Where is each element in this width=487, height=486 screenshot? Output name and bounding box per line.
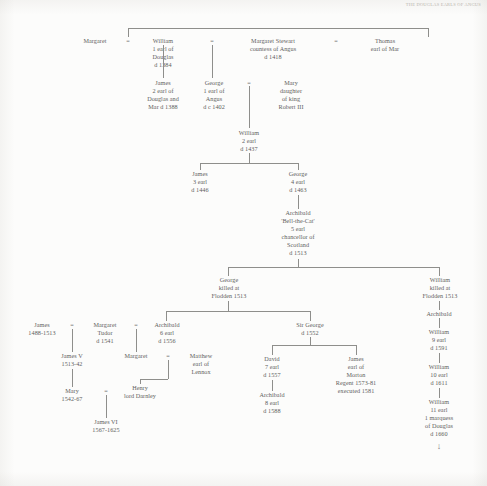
node-william-2-earl: William 2 earl d 1437	[215, 129, 283, 153]
node-william-11-earl: William 11 earl 1 marquess of Douglas d …	[404, 398, 474, 438]
node-james-v: James V 1513-42	[44, 352, 100, 368]
connector-to-sir-george	[310, 311, 311, 321]
node-james-vi: James VI 1567-1625	[78, 418, 134, 434]
connector-williamflodden-to-archibald	[439, 301, 440, 310]
connector-william9-to-william10	[439, 353, 440, 363]
connector-archibald-drop	[298, 259, 299, 267]
connector-to-james3	[200, 163, 201, 170]
continuation-arrow-icon: ↓	[409, 442, 469, 451]
node-archibald-bell-the-cat: Archibald 'Bell-the-Cat' 5 earl chancell…	[258, 209, 338, 258]
node-william-9-earl: William 9 earl d 1591	[409, 328, 469, 352]
node-archibald-right: Archibald	[409, 310, 469, 318]
marriage-symbol-margaret-stewart-thomas: =	[330, 37, 342, 45]
connector-margaretstewart-to-george1	[212, 45, 213, 78]
node-archibald-6-earl: Archibald 6 earl d 1556	[140, 321, 194, 345]
node-james-morton: James earl of Morton Regent 1573-81 exec…	[318, 355, 394, 395]
node-margaret-stewart: Margaret Stewart countess of Angus d 141…	[218, 37, 328, 61]
node-james-iv: James 1488-1513	[12, 321, 72, 337]
connector-to-james-v	[72, 329, 73, 352]
connector-to-archibald6	[166, 311, 167, 321]
node-mary-queen: Mary 1542-67	[44, 387, 100, 403]
connector-william2-drop	[249, 153, 250, 163]
marriage-symbol-william-margaret-stewart: =	[206, 37, 218, 45]
marriage-symbol-mary-darnley: =	[100, 387, 112, 395]
node-sir-george: Sir George d 1552	[282, 321, 338, 337]
connector-sirgeorge-drop	[310, 337, 311, 345]
node-thomas-earl-mar: Thomas earl of Mar	[345, 37, 425, 53]
node-archibald-8-earl: Archibald 8 earl d 1588	[246, 391, 298, 415]
node-mary-robert-iii: Mary daughter of king Robert III	[253, 79, 329, 111]
node-george-4-earl: George 4 earl d 1463	[270, 170, 326, 194]
node-william-10-earl: William 10 earl d 1611	[409, 363, 469, 387]
connector-to-william-flodden	[439, 267, 440, 276]
connector-to-james-morton	[356, 345, 357, 355]
node-george-flodden: George killed at Flodden 1513	[190, 276, 268, 300]
connector-gen7-horizontal	[166, 311, 310, 312]
connector-mary-darnley-to-jamesvi	[106, 395, 107, 418]
connector-gen1-left-drop	[128, 28, 129, 37]
connector-gen4-horizontal	[200, 163, 298, 164]
connector-gen1-top-horizontal	[128, 28, 428, 29]
connector-to-margaret-douglas	[136, 329, 137, 352]
connector-william10-to-william11	[439, 388, 440, 398]
connector-jamesv-to-mary	[72, 369, 73, 387]
node-william-flodden: William killed at Flodden 1513	[401, 276, 479, 300]
connector-to-henry-darnley-drop	[168, 360, 169, 379]
connector-to-george4	[298, 163, 299, 170]
node-margaret-1: Margaret	[60, 37, 130, 45]
connector-to-henry-darnley-horizontal	[140, 379, 168, 380]
connector-gen1-right-drop	[428, 28, 429, 37]
marriage-symbol-jamesiv-margarettudor: =	[66, 321, 78, 329]
running-head: THE DOUGLAS EARLS OF ANGUS	[406, 2, 481, 7]
connector-to-george-flodden	[228, 267, 229, 276]
connector-william1-to-james2	[163, 45, 164, 78]
family-tree-page: THE DOUGLAS EARLS OF ANGUS Margaret = Wi…	[0, 0, 487, 486]
connector-gen8-horizontal	[272, 345, 356, 346]
node-matthew-lennox: Matthew earl of Lennox	[172, 352, 230, 376]
connector-george4-to-archibald	[298, 195, 299, 209]
connector-george1mary-to-william2	[249, 86, 250, 128]
node-henry-darnley-upper: Henry lord Darnley	[112, 384, 168, 400]
connector-gen6-horizontal	[228, 267, 439, 268]
connector-archibaldright-to-william9	[439, 318, 440, 328]
node-margaret-douglas: Margaret	[108, 352, 164, 360]
node-james-3-earl: James 3 earl d 1446	[172, 170, 228, 194]
node-david-7-earl: David 7 earl d 1557	[246, 355, 298, 379]
node-george-1-earl-angus: George 1 earl of Angus d c 1402	[183, 79, 245, 111]
connector-to-david7	[272, 345, 273, 355]
connector-georgeflodden-drop	[228, 301, 229, 311]
node-margaret-tudor: Margaret Tudor d 1541	[78, 321, 132, 345]
connector-david7-to-archibald8	[272, 380, 273, 391]
